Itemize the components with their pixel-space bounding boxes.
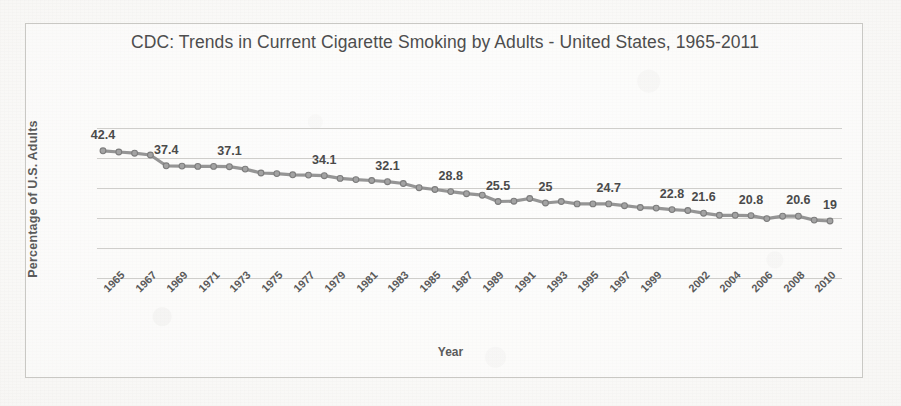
data-point-label: 42.4 [91,128,115,142]
data-point-marker [116,149,122,155]
data-point-label: 32.1 [375,159,399,173]
data-point-marker [796,213,802,219]
data-point-marker [353,177,359,183]
data-point-label: 21.6 [691,190,715,204]
data-point-label: 20.6 [786,193,810,207]
x-axis-tick-labels: 1965196719691971197319751977197919811983… [97,286,842,346]
data-point-marker [448,189,454,195]
data-point-marker [780,213,786,219]
series-canvas [97,128,842,278]
data-point-marker [306,172,312,178]
data-point-marker [321,173,327,179]
data-point-marker [543,200,549,206]
data-point-marker [527,196,533,202]
data-point-marker [495,199,501,205]
data-point-marker [163,163,169,169]
data-point-label: 22.8 [660,187,684,201]
data-point-marker [811,217,817,223]
data-point-marker [290,172,296,178]
data-point-marker [369,178,375,184]
data-point-label: 24.7 [597,181,621,195]
data-point-label: 25 [539,180,553,194]
data-point-marker [400,181,406,187]
data-point-label: 34.1 [312,153,336,167]
data-point-marker [511,198,517,204]
data-point-marker [558,199,564,205]
data-point-marker [637,205,643,211]
data-point-label: 19 [823,198,837,212]
data-point-marker [385,179,391,185]
data-point-marker [195,164,201,170]
data-point-marker [669,207,675,213]
data-point-marker [732,212,738,218]
data-point-marker [464,191,470,197]
data-point-marker [337,176,343,182]
data-point-marker [827,218,833,224]
data-point-marker [432,187,438,193]
data-point-marker [179,163,185,169]
series-line [103,151,830,221]
data-point-marker [227,164,233,170]
data-point-marker [100,148,106,154]
data-point-marker [148,152,154,158]
data-point-marker [416,185,422,191]
data-point-marker [748,213,754,219]
data-point-label: 28.8 [439,169,463,183]
data-point-marker [132,150,138,156]
data-point-marker [574,201,580,207]
data-point-marker [258,170,264,176]
data-point-marker [653,205,659,211]
chart-title: CDC: Trends in Current Cigarette Smoking… [95,30,795,55]
data-point-marker [274,171,280,177]
data-point-marker [764,216,770,222]
y-axis-title: Percentage of U.S. Adults [26,104,40,294]
data-point-label: 37.1 [217,144,241,158]
data-point-marker [701,210,707,216]
data-point-marker [242,166,248,172]
data-point-marker [479,192,485,198]
data-point-marker [685,208,691,214]
data-point-marker [211,164,217,170]
line-series [97,128,842,278]
data-point-label: 20.8 [739,193,763,207]
data-point-marker [622,203,628,209]
data-point-marker [590,201,596,207]
data-point-label: 37.4 [154,143,178,157]
data-point-label: 25.5 [486,179,510,193]
data-point-marker [717,212,723,218]
data-point-marker [606,201,612,207]
plot-area: 01020304050 42.437.437.134.132.128.825.5… [97,128,842,278]
x-axis-title: Year [0,345,901,359]
